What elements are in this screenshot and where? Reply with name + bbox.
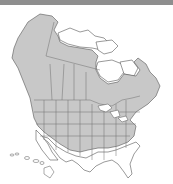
range-map	[0, 0, 173, 184]
